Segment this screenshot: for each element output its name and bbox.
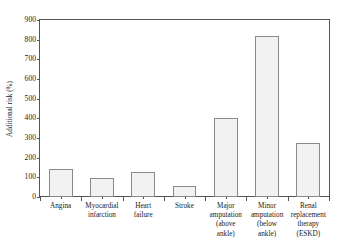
- x-axis-tick-mark-minor: [61, 197, 62, 199]
- x-axis-category-label-line: Stroke: [164, 202, 205, 211]
- x-axis-category-label: Stroke: [164, 202, 205, 211]
- x-axis-category-label-line: Renal: [288, 202, 329, 211]
- x-axis-tick-mark-major: [123, 197, 124, 201]
- x-axis-category-label-line: failure: [123, 211, 164, 220]
- x-axis-category-label-line: Major: [205, 202, 246, 211]
- x-axis-tick-mark-major: [205, 197, 206, 201]
- x-axis-tick-mark-major: [288, 197, 289, 201]
- x-axis-category-label: Angina: [40, 202, 81, 211]
- x-axis-category-label-line: ankle): [246, 230, 287, 239]
- x-axis-category-label-line: ankle): [205, 230, 246, 239]
- x-axis-category-label-line: therapy: [288, 220, 329, 229]
- x-axis-category-label-line: (above: [205, 220, 246, 229]
- x-axis-tick-mark-major: [164, 197, 165, 201]
- x-axis-tick-mark-minor: [267, 197, 268, 199]
- x-axis-tick-mark-minor: [102, 197, 103, 199]
- bar-chart-figure: Additional risk (%) 01002003004005006007…: [0, 0, 357, 250]
- x-axis-category-label-line: (ESKD): [288, 230, 329, 239]
- x-axis-category-label-line: amputation: [205, 211, 246, 220]
- x-axis-category-label-line: amputation: [246, 211, 287, 220]
- x-axis-tick-mark-minor: [226, 197, 227, 199]
- x-axis-category-label: Renalreplacementtherapy(ESKD): [288, 202, 329, 239]
- x-axis-tick-mark-minor: [308, 197, 309, 199]
- x-axis-tick-mark-major: [81, 197, 82, 201]
- x-axis-category-label-line: Angina: [40, 202, 81, 211]
- x-axis-tick-mark-major: [40, 197, 41, 201]
- x-axis-category-label: Minoramputation(belowankle): [246, 202, 287, 239]
- x-axis-tick-mark-minor: [185, 197, 186, 199]
- x-axis-category-label: Majoramputation(aboveankle): [205, 202, 246, 239]
- x-axis-tick-mark-major: [246, 197, 247, 201]
- x-axis-category-labels: AnginaMyocardialinfarctionHeartfailureSt…: [40, 202, 329, 250]
- x-axis-category-label-line: infarction: [81, 211, 122, 220]
- x-axis-category-label-line: Minor: [246, 202, 287, 211]
- x-axis-category-label-line: (below: [246, 220, 287, 229]
- x-axis-category-label-line: Heart: [123, 202, 164, 211]
- x-axis-tick-mark-major: [329, 197, 330, 201]
- x-axis-category-label-line: replacement: [288, 211, 329, 220]
- x-axis-category-label-line: Myocardial: [81, 202, 122, 211]
- x-axis-category-label: Myocardialinfarction: [81, 202, 122, 220]
- x-axis-tick-mark-minor: [143, 197, 144, 199]
- x-axis-category-label: Heartfailure: [123, 202, 164, 220]
